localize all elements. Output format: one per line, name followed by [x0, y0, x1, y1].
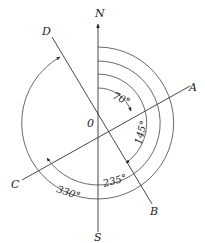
line-a-c — [22, 86, 190, 180]
label-c: C — [11, 178, 20, 191]
angle-label-70: 70° — [111, 90, 132, 107]
label-b: B — [149, 205, 158, 218]
angle-label-330: 330° — [55, 183, 81, 201]
label-d: D — [41, 25, 51, 38]
origin-label: 0 — [87, 117, 94, 130]
south-label: S — [94, 231, 102, 243]
arc-145 — [98, 74, 147, 163]
bearing-diagram: N S A B C D 0 70° 145° 235° 330° — [0, 0, 205, 243]
label-a: A — [188, 81, 197, 94]
angle-label-145: 145° — [132, 119, 149, 145]
angle-label-235: 235° — [101, 172, 128, 189]
north-label: N — [94, 7, 105, 20]
